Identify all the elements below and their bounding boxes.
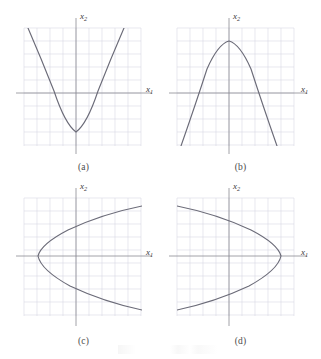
grid-d (177, 198, 294, 316)
y-axis-label-c: x2 (79, 181, 87, 192)
panel-d-plot: x2 x1 (163, 180, 318, 335)
panel-a-plot: x2 x1 (6, 6, 161, 161)
y-axis-label-a: x2 (79, 11, 87, 22)
y-axis-label-b: x2 (232, 11, 240, 22)
panel-d: x2 x1 (d) (163, 180, 318, 350)
panel-b: x2 x1 (b) (163, 6, 318, 176)
x-axis-label-b: x1 (300, 84, 308, 95)
x-axis-label-d: x1 (300, 247, 308, 258)
x-axis-label-c: x1 (145, 247, 153, 258)
grid-a (24, 28, 141, 146)
grid-b (177, 28, 294, 146)
panel-caption-a: (a) (6, 162, 161, 172)
y-axis-label-d: x2 (232, 181, 240, 192)
scan-artifact (118, 345, 218, 354)
panel-caption-b: (b) (163, 162, 318, 172)
grid-c (24, 198, 141, 316)
figure-root: x2 x1 (a) (0, 0, 321, 359)
panel-c-plot: x2 x1 (6, 180, 161, 335)
x-axis-label-a: x1 (145, 84, 153, 95)
axes-a (16, 18, 152, 154)
axes-b (169, 18, 307, 154)
panel-a: x2 x1 (a) (6, 6, 161, 176)
curve-c (38, 206, 142, 310)
panel-c: x2 x1 (c) (6, 180, 161, 350)
panel-b-plot: x2 x1 (163, 6, 318, 161)
